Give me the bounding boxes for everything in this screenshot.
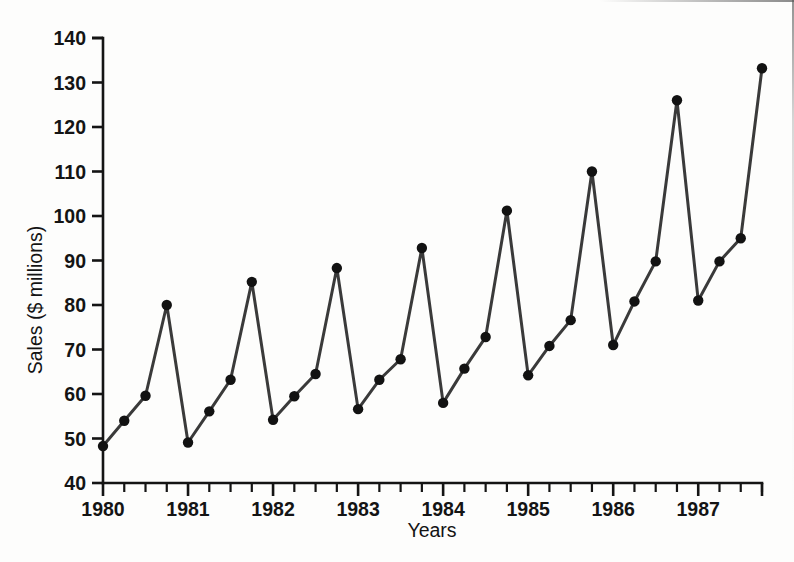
data-point [629, 296, 639, 306]
data-point [289, 391, 299, 401]
data-point [544, 341, 554, 351]
y-tick-label-120: 120 [53, 116, 86, 138]
data-point [395, 354, 405, 364]
x-tick-label-1983: 1983 [336, 498, 380, 520]
data-point [672, 95, 682, 105]
data-point [736, 233, 746, 243]
data-point [332, 263, 342, 273]
data-point [480, 332, 490, 342]
y-tick-label-80: 80 [64, 294, 86, 316]
x-tick-label-1984: 1984 [421, 498, 465, 520]
data-point [417, 243, 427, 253]
data-point [693, 295, 703, 305]
y-axis-tick-labels: 405060708090100110120130140 [53, 27, 86, 494]
data-point [587, 166, 597, 176]
data-point [565, 315, 575, 325]
data-point [225, 375, 235, 385]
data-point [714, 256, 724, 266]
data-series-line [103, 68, 762, 446]
x-tick-label-1981: 1981 [166, 498, 210, 520]
data-point [310, 369, 320, 379]
sales-line-chart: 405060708090100110120130140 198019811982… [0, 0, 794, 562]
y-tick-label-70: 70 [64, 339, 86, 361]
y-tick-label-140: 140 [53, 27, 86, 49]
data-point [247, 277, 257, 287]
data-point [651, 256, 661, 266]
data-point [502, 205, 512, 215]
sales-polyline [103, 68, 762, 446]
data-point [353, 404, 363, 414]
x-axis-title: Years [407, 519, 456, 541]
data-series-markers [98, 63, 767, 451]
x-tick-label-1980: 1980 [81, 498, 125, 520]
data-point [204, 406, 214, 416]
data-point [268, 415, 278, 425]
y-tick-label-40: 40 [64, 472, 86, 494]
x-tick-label-1982: 1982 [251, 498, 295, 520]
y-tick-label-130: 130 [53, 72, 86, 94]
x-axis-tick-marks [92, 38, 762, 496]
x-axis-tick-labels: 19801981198219831984198519861987 [81, 498, 720, 520]
data-point [119, 416, 129, 426]
data-point [523, 370, 533, 380]
data-point [183, 437, 193, 447]
x-tick-label-1985: 1985 [506, 498, 550, 520]
data-point [140, 391, 150, 401]
y-tick-label-50: 50 [64, 428, 86, 450]
y-tick-label-60: 60 [64, 383, 86, 405]
x-tick-label-1987: 1987 [677, 498, 720, 520]
chart-page: 405060708090100110120130140 198019811982… [0, 0, 794, 562]
y-tick-label-90: 90 [64, 250, 86, 272]
data-point [757, 63, 767, 73]
y-axis-tick-marks [92, 38, 103, 483]
data-point [374, 375, 384, 385]
data-point [608, 340, 618, 350]
y-tick-label-100: 100 [53, 205, 86, 227]
data-point [459, 363, 469, 373]
x-tick-label-1986: 1986 [591, 498, 635, 520]
data-point [162, 300, 172, 310]
y-tick-label-110: 110 [55, 161, 87, 183]
y-axis-title: Sales ($ millions) [24, 226, 46, 374]
data-point [98, 441, 108, 451]
data-point [438, 398, 448, 408]
